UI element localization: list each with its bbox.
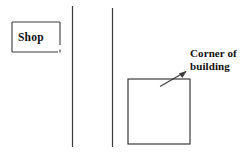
arrowhead-icon: [179, 72, 186, 78]
corner-label-line-2: building: [190, 60, 250, 73]
shop-label: Shop: [18, 28, 58, 46]
diagram-linework: [0, 0, 251, 154]
diagram-canvas: Shop Corner of building: [0, 0, 251, 154]
building-rectangle: [128, 79, 190, 144]
corner-label-line-1: Corner of: [190, 47, 237, 59]
corner-of-building-label: Corner of building: [190, 47, 250, 72]
